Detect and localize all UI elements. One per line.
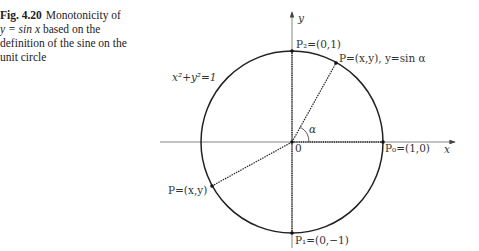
p2-label: P₂=(0,1) xyxy=(296,38,341,50)
radius-to-p-lower xyxy=(212,142,292,186)
p-upper-label: P=(x,y), y=sin α xyxy=(339,52,426,64)
p-lower-label: P=(x,y) xyxy=(168,184,207,196)
point-p2 xyxy=(290,49,294,53)
origin-label: 0 xyxy=(295,142,302,154)
angle-arc xyxy=(300,127,309,142)
p1-label: P₁=(0,−1) xyxy=(295,234,349,246)
circle-equation-label: x²+y²=1 xyxy=(172,71,217,83)
origin-point xyxy=(290,140,294,144)
point-p-upper xyxy=(334,61,338,65)
y-axis-label: y xyxy=(297,12,305,24)
x-axis-label: x xyxy=(444,143,450,155)
point-p-lower xyxy=(210,184,214,188)
point-p1 xyxy=(290,231,294,235)
unit-circle-diagram: y x 0 P₂=(0,1) P=(x,y), y=sin α P₀=(1,0)… xyxy=(0,0,479,251)
p0-label: P₀=(1,0) xyxy=(385,142,430,154)
angle-alpha-label: α xyxy=(309,123,316,135)
